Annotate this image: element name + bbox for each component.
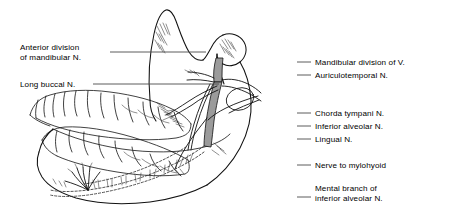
- lower-border-of-mandible: [37, 152, 207, 204]
- label-long-buccal-nerve: Long buccal N.: [20, 80, 75, 90]
- label-text-line: Mental branch of: [315, 184, 383, 194]
- angle-hatching: [212, 143, 226, 155]
- label-text-line: Long buccal N.: [20, 80, 75, 90]
- label-nerve-to-mylohyoid: Nerve to mylohyoid: [315, 161, 386, 171]
- coronoid-process: [149, 10, 203, 100]
- label-mandibular-division-of-v: Mandibular division of V.: [315, 58, 405, 68]
- label-chorda-tympani-nerve: Chorda tympani N.: [315, 109, 384, 119]
- inferior-alveolar-canal-course: [50, 146, 204, 192]
- label-text-line: of mandibular N.: [20, 53, 81, 63]
- mandible-bone: [37, 10, 251, 204]
- auriculotemporal-loop: [223, 84, 256, 114]
- anatomical-figure: .ink{fill:none;stroke:#111;stroke-width:…: [0, 0, 449, 218]
- label-text-line: Auriculotemporal N.: [315, 71, 388, 81]
- label-anterior-division-of-mandibular-nerve: Anterior divisionof mandibular N.: [20, 43, 81, 63]
- label-mental-branch-of-inferior-alveolar-nerve: Mental branch ofinferior alveolar N.: [315, 184, 383, 204]
- anterior-body-mandible: [39, 129, 53, 152]
- mandibular-division-trunk: [214, 58, 223, 82]
- label-text-line: Chorda tympani N.: [315, 109, 384, 119]
- nerve-to-mylohyoid-course: [84, 147, 186, 184]
- label-text-line: Mandibular division of V.: [315, 58, 405, 68]
- mandibular-notch: [203, 35, 223, 60]
- anterior-division-nerve: [188, 72, 214, 78]
- label-text-line: Anterior division: [20, 43, 81, 53]
- label-text-line: Nerve to mylohyoid: [315, 161, 386, 171]
- condyle-hatching: [220, 39, 236, 58]
- incisive-branches: [53, 179, 66, 187]
- label-auriculotemporal-nerve: Auriculotemporal N.: [315, 71, 388, 81]
- coronoid-hatching: [155, 23, 170, 53]
- label-text-line: Lingual N.: [315, 135, 352, 145]
- label-inferior-alveolar-nerve: Inferior alveolar N.: [315, 122, 383, 132]
- label-text-line: Inferior alveolar N.: [315, 122, 383, 132]
- label-lingual-nerve: Lingual N.: [315, 135, 352, 145]
- label-text-line: inferior alveolar N.: [315, 194, 383, 204]
